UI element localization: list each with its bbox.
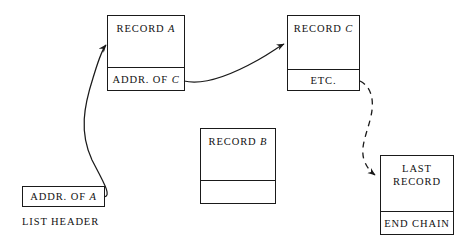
record-b-pointer-cell xyxy=(201,180,275,203)
record-a-pointer-cell: ADDR. OF C xyxy=(108,67,184,90)
linked-list-diagram: RECORD A ADDR. OF C RECORD C ETC. RECORD… xyxy=(0,0,470,247)
arrow-header-to-record-a xyxy=(84,45,107,197)
record-c-pointer-cell: ETC. xyxy=(288,69,359,90)
list-header-pointer-cell: ADDR. OF A xyxy=(22,186,105,207)
list-header-caption-label: LIST HEADER xyxy=(22,216,99,227)
last-record-pointer-cell: END CHAIN xyxy=(381,211,453,234)
record-b-name-label: RECORD B xyxy=(209,135,268,148)
record-a-pointer-label: ADDR. OF C xyxy=(112,73,179,86)
arrow-record-c-to-last-record xyxy=(360,81,375,175)
list-header-caption: LIST HEADER xyxy=(22,211,132,229)
record-c-box: RECORD C ETC. xyxy=(287,15,360,91)
last-record-pointer-label: END CHAIN xyxy=(384,217,450,230)
record-a-box: RECORD A ADDR. OF C xyxy=(107,15,185,91)
record-c-name-label: RECORD C xyxy=(294,22,353,35)
arrow-record-a-to-record-c xyxy=(184,44,284,82)
last-record-name-label: LASTRECORD xyxy=(393,162,441,188)
last-record-name-cell: LASTRECORD xyxy=(381,156,453,212)
record-b-box: RECORD B xyxy=(200,128,276,204)
record-c-name-cell: RECORD C xyxy=(288,16,359,70)
record-a-name-cell: RECORD A xyxy=(108,16,184,68)
record-a-name-label: RECORD A xyxy=(117,22,176,35)
record-b-name-cell: RECORD B xyxy=(201,129,275,181)
list-header-pointer-label: ADDR. OF A xyxy=(30,190,96,203)
record-c-pointer-label: ETC. xyxy=(310,74,336,87)
last-record-box: LASTRECORD END CHAIN xyxy=(380,155,454,235)
